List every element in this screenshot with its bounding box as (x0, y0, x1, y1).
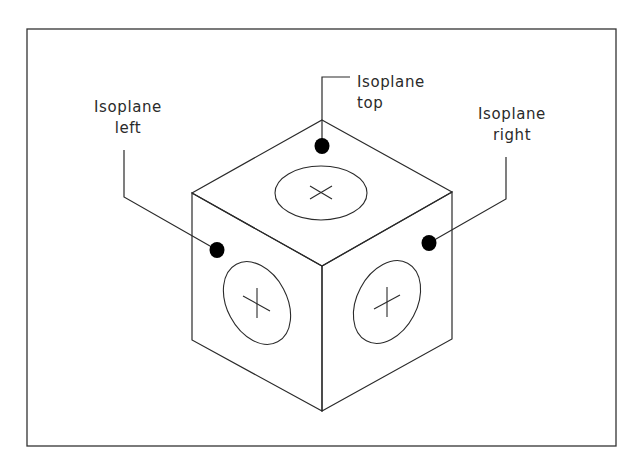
diagram-canvas (0, 0, 641, 472)
label-right-line1: Isoplane (470, 104, 554, 125)
label-isoplane-top: Isoplane top (357, 72, 425, 114)
label-left-line1: Isoplane (86, 97, 170, 118)
leader-dots (210, 138, 437, 258)
dot-icon-top (315, 138, 330, 154)
isoplane-cube-diagram: Isoplane top Isoplane left Isoplane righ… (0, 0, 641, 472)
isometric-cube (192, 120, 452, 411)
label-isoplane-left: Isoplane left (86, 97, 170, 139)
label-left-line2: left (86, 118, 170, 139)
label-top-line1: Isoplane (357, 72, 425, 93)
label-top-line2: top (357, 93, 425, 114)
label-right-line2: right (470, 125, 554, 146)
leader-left (124, 150, 217, 250)
right-isoplane-circle (340, 249, 434, 355)
top-isoplane-circle (275, 166, 367, 220)
dot-icon-right (422, 235, 437, 251)
left-isoplane-circle (210, 250, 304, 356)
leader-right (429, 157, 506, 243)
leader-top (322, 77, 350, 146)
leader-lines (124, 77, 506, 250)
label-isoplane-right: Isoplane right (470, 104, 554, 146)
dot-icon-left (210, 242, 225, 258)
